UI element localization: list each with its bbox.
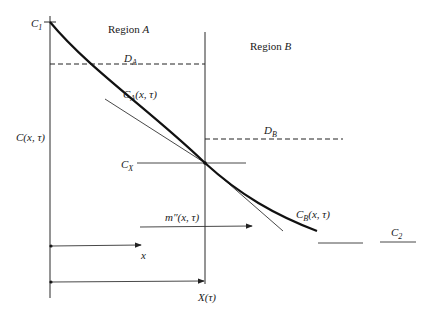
c-axis-label: C(x, τ) [16,131,45,144]
flux-arrow [140,226,252,227]
interface-point [203,161,207,165]
c2-label: C2 [391,226,402,241]
tangent-a-line [105,99,205,163]
region-a-label: Region A [108,23,150,35]
x-label: x [140,249,146,261]
db-label: DB [263,124,277,139]
flux-label: m″(x, τ) [165,211,200,224]
x-arrow [51,245,141,246]
ca-label: CA(x, τ) [123,88,157,103]
region-b-label: Region B [250,40,292,52]
interface-position-arrow [51,281,204,282]
cb-label: CB(x, τ) [296,208,330,223]
interface-label: X(τ) [197,291,216,304]
moving-boundary-diagram: C1 Region A Region B DA DB CA(x, τ) C(x,… [0,0,432,316]
c1-label: C1 [31,17,42,32]
curve-cb [205,163,317,231]
cx-label: CX [121,158,134,173]
da-label: DA [123,52,137,67]
